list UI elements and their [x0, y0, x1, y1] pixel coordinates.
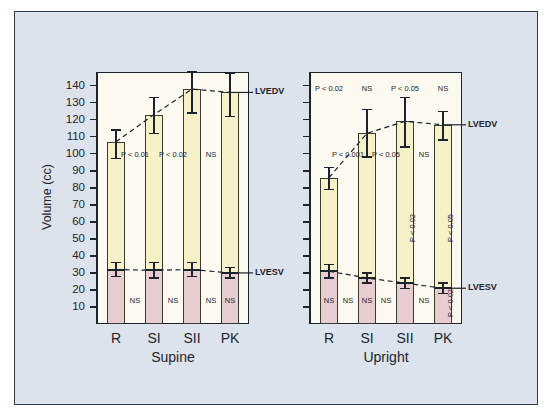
series-label-lvedv: LVEDV: [468, 119, 497, 129]
annotation-pvalue-upper: NS: [394, 150, 454, 159]
y-axis-tick-label: 130: [59, 97, 85, 108]
lvesv-mean-line: [221, 272, 239, 274]
x-axis-category-label: SII: [172, 330, 212, 346]
error-bar-lvedv-cap-lower: [187, 112, 197, 113]
error-bar-lvedv-stem: [442, 111, 443, 140]
x-axis-category-label: R: [96, 330, 136, 346]
y-axis-tick-label: 10: [59, 301, 85, 312]
error-bar-lvedv-cap-lower: [225, 116, 235, 117]
y-axis-tick-label: 110: [59, 131, 85, 142]
error-bar-lvesv-cap-upper: [187, 262, 197, 263]
error-bar-lvesv-cap-lower: [149, 277, 159, 278]
error-bar-lvesv-cap-upper: [225, 267, 235, 268]
annotation-pvalue-in-bar-vertical: P < 0.02: [408, 214, 417, 242]
x-axis-category-label: R: [309, 330, 349, 346]
y-axis-title: Volume (cc): [40, 164, 54, 230]
lvesv-mean-line: [320, 270, 338, 272]
annotation-pvalue-in-bar-vertical-lower: P < 0.02: [446, 289, 455, 317]
error-bar-lvedv-stem: [229, 74, 230, 117]
error-bar-lvesv-cap-upper: [438, 282, 448, 283]
error-bar-lvesv-cap-upper: [324, 264, 334, 265]
error-bar-lvesv-cap-upper: [149, 262, 159, 263]
y-axis-tick-label: 50: [59, 233, 85, 244]
error-bar-lvedv-stem: [153, 98, 154, 134]
y-axis-tick-label: 60: [59, 216, 85, 227]
error-bar-lvedv-cap-upper: [149, 97, 159, 98]
x-axis-category-label: SI: [134, 330, 174, 346]
x-axis-category-label: PK: [210, 330, 250, 346]
error-bar-lvesv-cap-upper: [362, 272, 372, 273]
error-bar-lvedv-cap-upper: [111, 129, 121, 130]
annotation-pvalue-in-bar: NS: [200, 296, 260, 305]
error-bar-lvedv-cap-upper: [225, 73, 235, 74]
annotation-pvalue-in-bar: NS: [337, 296, 397, 305]
error-bar-lvesv-cap-upper: [400, 277, 410, 278]
series-label-lvedv: LVEDV: [255, 86, 284, 96]
lvesv-mean-line: [145, 269, 163, 271]
lvesv-mean-line: [107, 269, 125, 271]
lvesv-mean-line: [396, 282, 414, 284]
y-axis-tick-label: 100: [59, 148, 85, 159]
error-bar-lvedv-cap-upper: [362, 109, 372, 110]
x-axis-category-label: SI: [347, 330, 387, 346]
lvesv-mean-line: [358, 277, 376, 279]
error-bar-lvedv-cap-lower: [438, 139, 448, 140]
panel-title-upright: Upright: [306, 349, 466, 365]
error-bar-lvesv-cap-lower: [111, 276, 121, 277]
y-axis-tick-label: 40: [59, 250, 85, 261]
y-axis-tick-label: 80: [59, 182, 85, 193]
y-axis-tick-label: 30: [59, 267, 85, 278]
y-axis-line: [309, 72, 311, 324]
error-bar-lvedv-cap-lower: [324, 189, 334, 190]
error-bar-lvedv-cap-upper: [187, 71, 197, 72]
error-bar-lvedv-stem: [328, 167, 329, 189]
error-bar-lvesv-cap-upper: [111, 262, 121, 263]
error-bar-lvedv-cap-upper: [324, 167, 334, 168]
error-bar-lvedv-cap-upper: [400, 97, 410, 98]
annotation-pvalue-top: NS: [413, 84, 473, 93]
error-bar-lvedv-cap-upper: [438, 111, 448, 112]
error-bar-lvesv-cap-lower: [400, 288, 410, 289]
error-bar-lvesv-cap-lower: [187, 276, 197, 277]
error-bar-lvesv-cap-lower: [362, 282, 372, 283]
error-bar-lvedv-stem: [191, 72, 192, 113]
figure-root: Volume (cc) 1020304050607080901001101201…: [0, 0, 552, 416]
lvesv-mean-line: [183, 269, 201, 271]
error-bar-lvesv-cap-lower: [225, 277, 235, 278]
y-axis-tick-label: 140: [59, 80, 85, 91]
y-axis-tick-label: 70: [59, 199, 85, 210]
error-bar-lvedv-cap-lower: [400, 146, 410, 147]
panel-title-supine: Supine: [93, 349, 253, 365]
y-axis-line: [96, 72, 98, 324]
annotation-pvalue-in-bar-vertical: P < 0.05: [446, 214, 455, 242]
error-bar-lvedv-stem: [404, 98, 405, 147]
series-label-lvesv: LVESV: [468, 282, 497, 292]
y-axis-tick-label: 20: [59, 284, 85, 295]
x-axis-category-label: SII: [385, 330, 425, 346]
y-axis-tick-label: 120: [59, 114, 85, 125]
annotation-pvalue-upper: NS: [181, 150, 241, 159]
y-axis-tick-label: 90: [59, 165, 85, 176]
series-label-lvesv: LVESV: [255, 267, 284, 277]
error-bar-lvesv-cap-lower: [324, 277, 334, 278]
x-axis-category-label: PK: [423, 330, 463, 346]
error-bar-lvedv-cap-lower: [149, 133, 159, 134]
annotation-pvalue-lower: NS: [394, 296, 454, 305]
